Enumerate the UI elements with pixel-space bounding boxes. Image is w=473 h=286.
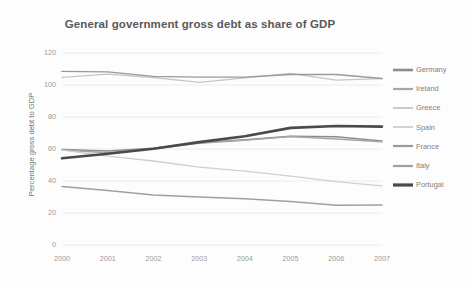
x-axis-tick-label: 2005 xyxy=(271,254,311,263)
legend-swatch-greece xyxy=(393,103,413,113)
legend-swatch-france xyxy=(393,141,413,151)
legend-swatch-spain xyxy=(393,122,413,132)
y-axis-tick-label: 120 xyxy=(30,48,56,57)
legend-swatch-ireland xyxy=(393,84,413,94)
x-axis-tick-label: 2000 xyxy=(42,254,82,263)
legend-swatch-portugal xyxy=(393,180,413,190)
legend-label: Portugal xyxy=(416,180,444,189)
y-axis-tick-label: 100 xyxy=(30,80,56,89)
legend-item[interactable]: Portugal xyxy=(393,175,473,194)
legend-label: Greece xyxy=(416,103,440,112)
chart-legend: Germany Ireland Greece Spain France Ital… xyxy=(393,60,473,194)
x-axis-tick-label: 2006 xyxy=(316,254,356,263)
x-axis-tick-label: 2007 xyxy=(362,254,402,263)
legend-item[interactable]: Germany xyxy=(393,60,473,79)
series-line-italy xyxy=(62,186,382,205)
legend-label: France xyxy=(416,142,439,151)
chart-container: General government gross debt as share o… xyxy=(0,0,473,286)
x-axis-tick-label: 2004 xyxy=(225,254,265,263)
y-axis-tick-label: 40 xyxy=(30,176,56,185)
legend-label: Italy xyxy=(416,161,430,170)
y-axis-tick-label: 20 xyxy=(30,208,56,217)
legend-item[interactable]: Greece xyxy=(393,98,473,117)
legend-label: Spain xyxy=(416,123,435,132)
legend-swatch-italy xyxy=(393,161,413,171)
legend-item[interactable]: France xyxy=(393,137,473,156)
y-axis-tick-label: 60 xyxy=(30,144,56,153)
x-axis-tick-label: 2001 xyxy=(88,254,128,263)
legend-item[interactable]: Ireland xyxy=(393,79,473,98)
x-axis-tick-label: 2002 xyxy=(133,254,173,263)
legend-item[interactable]: Spain xyxy=(393,118,473,137)
legend-label: Germany xyxy=(416,65,446,74)
y-axis-tick-label: 0 xyxy=(30,240,56,249)
series-line-spain xyxy=(62,150,382,186)
legend-label: Ireland xyxy=(416,84,439,93)
y-axis-tick-label: 80 xyxy=(30,112,56,121)
legend-item[interactable]: Italy xyxy=(393,156,473,175)
x-axis-tick-label: 2003 xyxy=(179,254,219,263)
legend-swatch-germany xyxy=(393,65,413,75)
